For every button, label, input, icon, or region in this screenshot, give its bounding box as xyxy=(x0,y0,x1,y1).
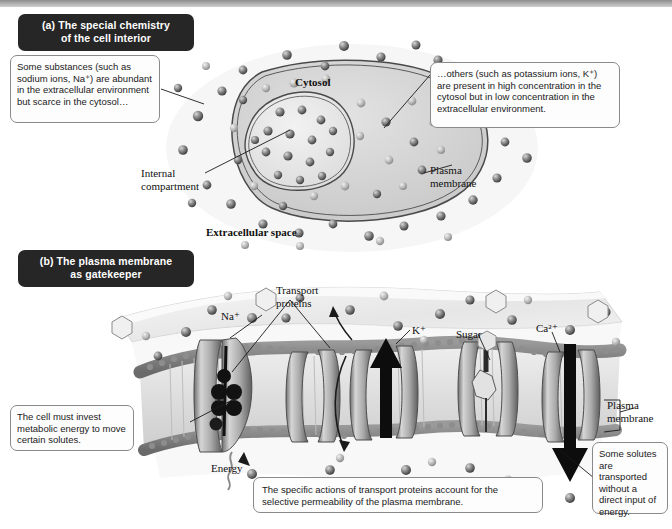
label-sugar: Sugar xyxy=(456,328,482,341)
panel-b-title-line1: (b) The plasma membrane xyxy=(40,255,172,267)
panel-b-callout-right: Some solutes are transported without a d… xyxy=(592,442,668,514)
label-potassium: K⁺ xyxy=(412,324,426,337)
label-plasma-membrane-b: Plasma membrane xyxy=(607,399,667,424)
membrane-transport-figure: (a) The special chemistry of the cell in… xyxy=(0,0,672,529)
panel-b-title-line2: as gatekeeper xyxy=(70,268,141,280)
label-transport-proteins: Transport proteins xyxy=(276,284,340,310)
label-sodium: Na⁺ xyxy=(221,310,240,323)
panel-b-callout-left: The cell must invest metabolic energy to… xyxy=(10,405,134,451)
label-energy: Energy xyxy=(211,462,243,475)
label-calcium: Ca²⁺ xyxy=(536,322,558,335)
panel-b-callout-bottom: The specific actions of transport protei… xyxy=(253,477,543,513)
panel-b-title-plaque: (b) The plasma membrane as gatekeeper xyxy=(18,250,194,287)
